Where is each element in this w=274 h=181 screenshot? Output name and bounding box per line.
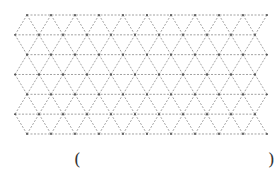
grid-vertex bbox=[170, 133, 172, 135]
grid-line bbox=[123, 94, 135, 114]
grid-vertex bbox=[146, 93, 148, 95]
grid-line bbox=[183, 35, 195, 55]
grid-line bbox=[87, 15, 99, 35]
grid-line bbox=[135, 35, 147, 55]
grid-line bbox=[171, 35, 183, 55]
grid-line bbox=[63, 74, 75, 94]
grid-line bbox=[27, 94, 39, 114]
grid-line bbox=[75, 55, 87, 75]
grid-vertex bbox=[182, 34, 184, 36]
grid-vertex bbox=[194, 133, 196, 135]
grid-line bbox=[111, 15, 123, 35]
grid-line bbox=[159, 15, 171, 35]
grid-vertex bbox=[86, 34, 88, 36]
grid-vertex bbox=[62, 74, 64, 76]
grid-line bbox=[39, 74, 51, 94]
grid-vertex bbox=[194, 93, 196, 95]
grid-vertex bbox=[14, 74, 16, 76]
grid-vertex bbox=[146, 14, 148, 16]
grid-line bbox=[75, 94, 87, 114]
grid-vertex bbox=[266, 54, 268, 56]
grid-line bbox=[51, 55, 63, 75]
grid-vertex bbox=[218, 93, 220, 95]
grid-vertex bbox=[206, 74, 208, 76]
grid-line bbox=[75, 35, 87, 55]
grid-vertex bbox=[50, 93, 52, 95]
grid-line bbox=[87, 114, 99, 134]
grid-vertex bbox=[86, 113, 88, 115]
grid-vertex bbox=[14, 113, 16, 115]
grid-line bbox=[243, 74, 255, 94]
grid-line bbox=[15, 35, 27, 55]
grid-vertex bbox=[170, 93, 172, 95]
grid-vertex bbox=[182, 113, 184, 115]
grid-line bbox=[99, 35, 111, 55]
grid-line bbox=[51, 114, 63, 134]
grid-vertex bbox=[266, 133, 268, 135]
grid-line bbox=[231, 94, 243, 114]
grid-line bbox=[255, 35, 267, 55]
grid-vertex bbox=[14, 34, 16, 36]
grid-vertex bbox=[74, 54, 76, 56]
grid-line bbox=[243, 35, 255, 55]
grid-vertex bbox=[122, 133, 124, 135]
grid-line bbox=[255, 55, 267, 75]
grid-line bbox=[159, 94, 171, 114]
grid-vertex bbox=[242, 14, 244, 16]
grid-line bbox=[219, 114, 231, 134]
grid-line bbox=[219, 55, 231, 75]
grid-line bbox=[99, 15, 111, 35]
grid-vertex bbox=[218, 133, 220, 135]
grid-vertex bbox=[62, 34, 64, 36]
grid-line bbox=[63, 35, 75, 55]
grid-line bbox=[231, 55, 243, 75]
grid-line bbox=[75, 15, 87, 35]
grid-vertex bbox=[206, 34, 208, 36]
grid-line bbox=[39, 15, 51, 35]
grid-line bbox=[123, 35, 135, 55]
grid-line bbox=[219, 35, 231, 55]
grid-line bbox=[51, 35, 63, 55]
grid-line bbox=[15, 114, 27, 134]
grid-line bbox=[195, 55, 207, 75]
grid-line bbox=[39, 114, 51, 134]
grid-vertex bbox=[134, 113, 136, 115]
grid-line bbox=[159, 35, 171, 55]
grid-line bbox=[39, 55, 51, 75]
grid-line bbox=[207, 35, 219, 55]
grid-line bbox=[15, 94, 27, 114]
grid-vertex bbox=[170, 14, 172, 16]
grid-vertex bbox=[98, 54, 100, 56]
grid-line bbox=[195, 74, 207, 94]
grid-line bbox=[99, 74, 111, 94]
grid-line bbox=[51, 15, 63, 35]
grid-line bbox=[207, 94, 219, 114]
grid-line bbox=[219, 74, 231, 94]
grid-vertex bbox=[266, 93, 268, 95]
grid-vertex bbox=[242, 93, 244, 95]
grid-line bbox=[207, 55, 219, 75]
grid-line bbox=[63, 55, 75, 75]
grid-line bbox=[27, 15, 39, 35]
grid-line bbox=[171, 94, 183, 114]
grid-line bbox=[147, 55, 159, 75]
grid-line bbox=[147, 74, 159, 94]
grid-line bbox=[87, 55, 99, 75]
grid-vertex bbox=[122, 14, 124, 16]
grid-vertex bbox=[74, 14, 76, 16]
grid-line bbox=[231, 74, 243, 94]
grid-vertex bbox=[50, 54, 52, 56]
grid-line bbox=[111, 114, 123, 134]
grid-line bbox=[219, 94, 231, 114]
grid-line bbox=[27, 55, 39, 75]
grid-vertex bbox=[110, 74, 112, 76]
grid-line bbox=[147, 35, 159, 55]
grid-line bbox=[147, 114, 159, 134]
grid-line bbox=[207, 114, 219, 134]
grid-line bbox=[15, 74, 27, 94]
grid-vertex bbox=[158, 113, 160, 115]
grid-line bbox=[195, 94, 207, 114]
grid-line bbox=[231, 114, 243, 134]
grid-line bbox=[255, 15, 267, 35]
grid-vertex bbox=[26, 54, 28, 56]
